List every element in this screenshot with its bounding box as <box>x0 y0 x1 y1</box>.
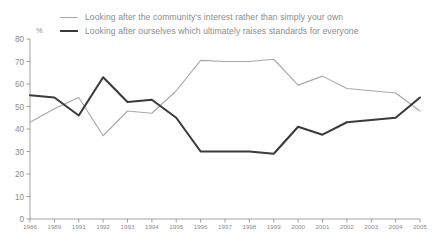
x-axis-tick-label: 2004 <box>389 223 403 230</box>
legend-item-ourselves: Looking after ourselves which ultimately… <box>60 24 359 38</box>
x-axis-tick-label: 2001 <box>316 223 330 230</box>
y-axis-tick-label: 50 <box>8 102 24 111</box>
legend-label-ourselves: Looking after ourselves which ultimately… <box>85 26 359 36</box>
y-axis-tick-label: 10 <box>8 192 24 201</box>
legend-swatch-line-icon <box>60 17 78 18</box>
y-axis-tick-labels: 80706050403020100 <box>6 39 24 219</box>
x-axis-tick-label: 1996 <box>194 223 208 230</box>
x-axis-tick-label: 1992 <box>96 223 110 230</box>
y-axis-tick-label: 0 <box>8 215 24 224</box>
x-axis-tick-label: 1994 <box>145 223 159 230</box>
y-axis-tick-label: 80 <box>8 35 24 44</box>
x-axis-tick-label: 1995 <box>169 223 183 230</box>
legend-label-community: Looking after the community's interest r… <box>85 12 343 22</box>
x-axis-tick-label: 1997 <box>218 223 232 230</box>
legend-item-community: Looking after the community's interest r… <box>60 10 359 24</box>
y-axis-tick-label: 70 <box>8 57 24 66</box>
series-line-ourselves <box>30 77 420 154</box>
x-axis-tick-label: 2002 <box>340 223 354 230</box>
legend-swatch-line-icon <box>60 30 78 32</box>
y-axis-tick-label: 40 <box>8 125 24 134</box>
x-axis-tick-label: 1986 <box>23 223 37 230</box>
x-axis-tick-label: 1999 <box>267 223 281 230</box>
y-axis-tick-label: 20 <box>8 170 24 179</box>
chart-legend: Looking after the community's interest r… <box>60 10 359 38</box>
x-axis-tick-label: 2000 <box>291 223 305 230</box>
chart-container: Looking after the community's interest r… <box>0 0 438 244</box>
series-line-community <box>30 59 420 136</box>
x-axis-tick-label: 1991 <box>72 223 86 230</box>
x-axis-tick-label: 2003 <box>364 223 378 230</box>
x-axis-tick-label: 1993 <box>121 223 135 230</box>
plot-area <box>30 39 420 219</box>
x-axis-tick-labels: 1986198919911992199319941995199619971998… <box>30 223 420 237</box>
chart-svg <box>30 39 420 219</box>
x-axis-tick-label: 1998 <box>242 223 256 230</box>
x-axis-tick-label: 1989 <box>47 223 61 230</box>
y-axis-tick-label: 30 <box>8 147 24 156</box>
y-axis-tick-label: 60 <box>8 80 24 89</box>
x-axis-tick-label: 2005 <box>413 223 427 230</box>
y-axis-unit-label: % <box>36 26 43 35</box>
